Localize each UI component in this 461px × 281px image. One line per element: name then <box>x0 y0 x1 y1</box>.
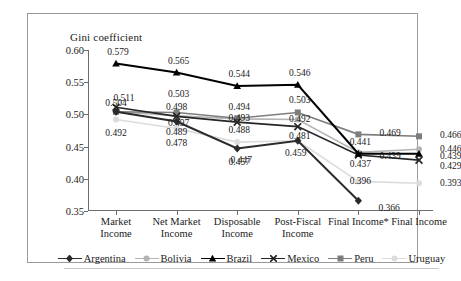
legend-label: Peru <box>354 253 373 264</box>
legend-swatch <box>135 253 159 263</box>
legend-label: Bolivia <box>161 253 192 264</box>
x-axis-label-line: Net Market <box>153 216 201 228</box>
y-tick-mark <box>84 211 88 212</box>
data-label: 0.492 <box>289 114 310 124</box>
data-label: 0.492 <box>105 128 126 138</box>
x-tick-mark <box>116 211 117 215</box>
x-axis-label-line: Final Income* <box>328 216 389 228</box>
data-label: 0.439 <box>379 151 400 161</box>
series-line-brazil <box>116 64 419 154</box>
y-tick-label: 0.55 <box>66 77 84 88</box>
x-axis-label-line: Post-Fiscal <box>274 216 321 228</box>
data-point-marker <box>209 255 216 262</box>
legend-item-brazil[interactable]: Brazil <box>201 253 253 264</box>
legend-marker-icon <box>143 255 150 262</box>
legend-marker-icon <box>209 255 216 262</box>
x-axis-label-line: Disposable <box>214 216 261 228</box>
data-label: 0.466 <box>440 130 461 140</box>
legend-marker-icon <box>270 255 277 262</box>
x-axis-label-line: Income <box>274 228 321 240</box>
legend-label: Uruguay <box>408 253 445 264</box>
x-axis-label: Final Income <box>391 216 447 228</box>
x-axis-label: Net MarketIncome <box>153 216 201 240</box>
data-label: 0.366 <box>378 203 399 213</box>
data-label: 0.478 <box>166 138 187 148</box>
data-label: 0.429 <box>440 161 461 171</box>
data-point-marker <box>234 145 241 153</box>
data-label: 0.469 <box>379 128 400 138</box>
data-label: 0.481 <box>289 131 310 141</box>
data-label: 0.503 <box>289 95 310 105</box>
y-tick-label: 0.35 <box>66 206 84 217</box>
legend-swatch <box>382 253 406 263</box>
data-point-marker <box>113 117 119 123</box>
legend-label: Brazil <box>227 253 253 264</box>
legend-label: Argentina <box>84 253 126 264</box>
data-label: 0.396 <box>350 176 371 186</box>
data-label: 0.393 <box>440 178 461 188</box>
legend-marker-icon <box>66 255 73 262</box>
x-tick-mark <box>419 211 420 215</box>
data-label: 0.459 <box>285 148 306 158</box>
x-tick-mark <box>358 211 359 215</box>
legend-swatch <box>58 253 82 263</box>
data-label: 0.493 <box>229 113 250 123</box>
data-label: 0.565 <box>168 56 189 66</box>
data-point-marker <box>270 255 277 262</box>
legend-divider <box>64 268 439 269</box>
legend-marker-icon <box>391 255 398 262</box>
data-label: 0.457 <box>229 157 250 167</box>
data-label: 0.544 <box>229 69 250 79</box>
x-axis-label-line: Income <box>100 228 132 240</box>
data-point-marker <box>66 255 73 262</box>
data-point-marker <box>234 139 240 145</box>
data-point-marker <box>391 255 397 261</box>
data-label: 0.439 <box>440 151 461 161</box>
y-tick-label: 0.45 <box>66 141 84 152</box>
y-tick-label: 0.50 <box>66 109 84 120</box>
data-label: 0.437 <box>350 159 371 169</box>
legend-swatch <box>328 253 352 263</box>
x-tick-mark <box>177 211 178 215</box>
y-tick-label: 0.60 <box>66 45 84 56</box>
x-axis-label-line: Market <box>100 216 132 228</box>
x-axis-label-line: Final Income <box>391 216 447 228</box>
legend-swatch <box>261 253 285 263</box>
data-label: 0.511 <box>113 93 134 103</box>
data-label: 0.503 <box>168 89 189 99</box>
chart-legend: ArgentinaBoliviaBrazilMexicoPeruUruguay <box>64 250 439 266</box>
legend-swatch <box>201 253 225 263</box>
data-label: 0.498 <box>166 102 187 112</box>
legend-marker-icon <box>337 255 344 262</box>
x-axis-label-line: Income <box>153 228 201 240</box>
y-tick-label: 0.40 <box>66 173 84 184</box>
legend-item-bolivia[interactable]: Bolivia <box>135 253 192 264</box>
data-point-marker <box>416 133 422 139</box>
chart-frame: Gini coefficient 0.350.400.450.500.550.6… <box>27 13 418 263</box>
data-label: 0.497 <box>168 118 189 128</box>
x-axis-label: MarketIncome <box>100 216 132 240</box>
plot-area: 0.350.400.450.500.550.60 0.5040.4890.447… <box>88 50 433 211</box>
y-axis-title: Gini coefficient <box>70 31 142 43</box>
data-label: 0.494 <box>229 102 250 112</box>
x-tick-mark <box>237 211 238 215</box>
x-axis-label: DisposableIncome <box>214 216 261 240</box>
data-label: 0.546 <box>289 68 310 78</box>
x-axis-label: Post-FiscalIncome <box>274 216 321 240</box>
legend-label: Mexico <box>287 253 319 264</box>
data-label: 0.489 <box>166 127 187 137</box>
data-label: 0.441 <box>350 137 371 147</box>
data-point-marker <box>144 255 150 261</box>
data-point-marker <box>416 180 422 186</box>
x-axis-label-line: Income <box>214 228 261 240</box>
x-tick-mark <box>298 211 299 215</box>
data-point-marker <box>337 255 343 261</box>
legend-item-mexico[interactable]: Mexico <box>261 253 319 264</box>
legend-item-argentina[interactable]: Argentina <box>58 253 126 264</box>
data-label: 0.579 <box>107 47 128 57</box>
legend-item-peru[interactable]: Peru <box>328 253 373 264</box>
data-label: 0.488 <box>229 125 250 135</box>
x-axis-label: Final Income* <box>328 216 389 228</box>
legend-item-uruguay[interactable]: Uruguay <box>382 253 445 264</box>
series-line-bolivia <box>116 112 419 153</box>
